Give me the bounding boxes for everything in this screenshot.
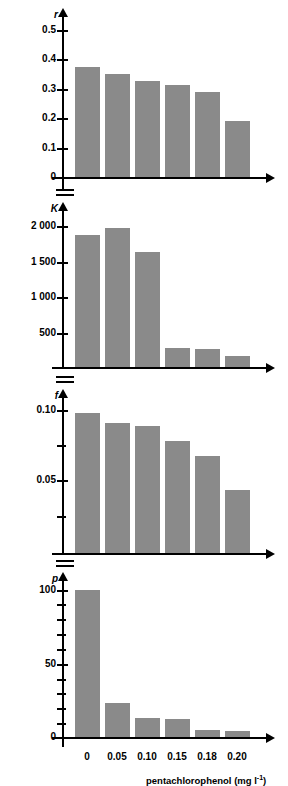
y-tick-mark-f-0 <box>57 516 66 518</box>
y-tick-label-r-2: 0.2 <box>18 113 56 123</box>
y-tick-label-r-5: 0.5 <box>18 25 56 35</box>
y-tick-mark-p-6 <box>57 649 66 651</box>
y-tick-label-K-1: 1 000 <box>0 292 56 302</box>
bar-K-4 <box>195 349 220 367</box>
x-axis-arrow-K <box>266 363 275 373</box>
y-tick-label-r-1: 0.1 <box>18 143 56 153</box>
y-tick-mark-r-3 <box>57 89 68 91</box>
x-axis-line-r <box>52 177 267 179</box>
x-axis-arrow-r <box>266 173 275 183</box>
y-axis-label-f: f <box>18 391 58 401</box>
panel-r: r 0.5 0.4 0.3 0.2 0.1 0 <box>0 0 288 195</box>
bar-K-0 <box>75 235 100 367</box>
y-tick-mark-p-1 <box>57 723 66 725</box>
x-tick-label-5: 0.20 <box>217 752 257 762</box>
bar-K-2 <box>135 252 160 367</box>
y-tick-mark-p-7 <box>57 634 66 636</box>
y-tick-mark-K-3 <box>57 226 68 228</box>
x-axis-caption-tail: ) <box>263 775 266 786</box>
y-tick-label-K-0: 500 <box>0 328 56 338</box>
y-axis-line-r <box>62 16 64 181</box>
bar-f-0 <box>75 413 100 553</box>
bar-r-4 <box>195 92 220 177</box>
y-tick-label-r-3: 0.3 <box>18 84 56 94</box>
bar-p-1 <box>105 703 130 737</box>
y-tick-label-f-1: 0.05 <box>14 475 56 485</box>
bar-K-5 <box>225 356 250 367</box>
y-tick-mark-K-1 <box>57 297 68 299</box>
x-axis-origin-tick-p <box>62 737 64 747</box>
x-axis-origin-tick-r <box>62 177 64 189</box>
bar-K-1 <box>105 228 130 367</box>
y-tick-mark-r-4 <box>57 59 68 61</box>
y-tick-mark-p-10 <box>57 590 68 592</box>
y-tick-mark-p-4 <box>57 679 66 681</box>
y-axis-label-r: r <box>18 10 58 20</box>
y-axis-label-p: p <box>18 574 58 584</box>
panel-f: f 0.10 0.05 <box>0 386 288 572</box>
x-axis-caption-main: pentachlorophenol (mg l <box>146 775 257 786</box>
x-axis-line-f <box>52 553 267 555</box>
y-tick-mark-p-5 <box>57 664 68 666</box>
bar-K-3 <box>165 348 190 367</box>
bar-r-3 <box>165 85 190 177</box>
y-tick-label-p-0: 0 <box>14 732 56 742</box>
y-tick-mark-r-5 <box>57 30 68 32</box>
bar-f-4 <box>195 456 220 553</box>
bar-p-3 <box>165 719 190 737</box>
y-tick-label-p-5: 50 <box>14 659 56 669</box>
y-tick-mark-f-1 <box>57 480 68 482</box>
x-axis-caption: pentachlorophenol (mg l-1) <box>146 772 266 786</box>
y-tick-mark-p-2 <box>57 708 66 710</box>
bar-r-0 <box>75 67 100 177</box>
y-tick-mark-r-1 <box>57 148 68 150</box>
y-tick-mark-p-9 <box>57 604 66 606</box>
x-axis-line-K <box>52 367 267 369</box>
bar-p-0 <box>75 590 100 737</box>
y-axis-line-K <box>62 210 64 368</box>
bar-f-1 <box>105 423 130 553</box>
x-axis-arrow-f <box>266 549 275 559</box>
y-tick-mark-f-2 <box>57 445 66 447</box>
y-axis-line-f <box>62 397 64 554</box>
bar-r-5 <box>225 121 250 177</box>
bar-f-3 <box>165 441 190 553</box>
y-tick-mark-K-0 <box>57 333 68 335</box>
multi-panel-bar-chart-figure: r 0.5 0.4 0.3 0.2 0.1 0 K 2 000 1 5 <box>0 0 288 786</box>
x-axis-line-p <box>52 737 267 739</box>
y-tick-mark-r-2 <box>57 118 68 120</box>
y-tick-mark-p-8 <box>57 619 66 621</box>
bar-r-1 <box>105 74 130 177</box>
y-tick-label-r-0: 0 <box>18 172 56 182</box>
bar-r-2 <box>135 81 160 177</box>
y-tick-label-K-3: 2 000 <box>0 221 56 231</box>
panel-p: p 100 50 0 0 0.05 0.10 0.15 0.18 0.20 pe… <box>0 572 288 786</box>
y-tick-label-r-4: 0.4 <box>18 54 56 64</box>
y-tick-mark-K-2 <box>57 262 68 264</box>
bar-p-4 <box>195 730 220 737</box>
bar-p-2 <box>135 718 160 737</box>
y-tick-label-K-2: 1 500 <box>0 257 56 267</box>
y-tick-mark-f-3 <box>57 410 68 412</box>
y-tick-label-p-10: 100 <box>14 585 56 595</box>
bar-f-2 <box>135 426 160 553</box>
y-axis-label-K: K <box>18 204 58 214</box>
y-tick-label-f-3: 0.10 <box>14 405 56 415</box>
panel-K: K 2 000 1 500 1 000 500 <box>0 196 288 386</box>
y-tick-mark-p-3 <box>57 693 66 695</box>
bar-f-5 <box>225 490 250 553</box>
x-axis-arrow-p <box>266 733 275 743</box>
